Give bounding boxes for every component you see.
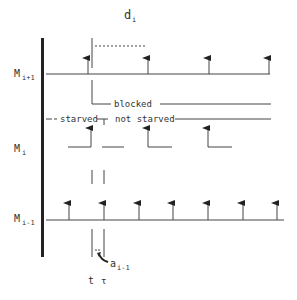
machine-timing-diagram: d i M i+1 M i M i-1 blocked xyxy=(0,0,297,300)
label-machine-middle: M i xyxy=(14,143,26,157)
starved-label: starved xyxy=(60,114,98,124)
title-main: d xyxy=(124,8,131,22)
timeline-lower xyxy=(46,203,284,220)
label-machine-upper: M i+1 xyxy=(14,68,35,82)
interval-markers xyxy=(92,170,104,184)
label-main: M xyxy=(14,68,20,79)
tau-label: τ xyxy=(101,276,106,286)
a-main: a xyxy=(110,258,116,269)
label-machine-lower: M i-1 xyxy=(14,213,35,227)
title-sub: i xyxy=(132,16,136,24)
label-sub: i xyxy=(22,149,26,157)
label-sub: i-1 xyxy=(22,219,35,227)
label-a: a i-1 xyxy=(110,258,130,272)
label-main: M xyxy=(14,213,20,224)
label-sub: i+1 xyxy=(22,74,35,82)
timeline-middle xyxy=(68,128,232,147)
not-starved-label: not starved xyxy=(115,114,175,124)
blocked-label: blocked xyxy=(114,99,152,109)
a-sub: i-1 xyxy=(117,264,130,272)
label-main: M xyxy=(14,143,20,154)
interval-a xyxy=(92,229,108,262)
t-label: t xyxy=(88,275,94,286)
timeline-upper xyxy=(46,38,270,74)
diagram-title: d i xyxy=(124,8,136,24)
